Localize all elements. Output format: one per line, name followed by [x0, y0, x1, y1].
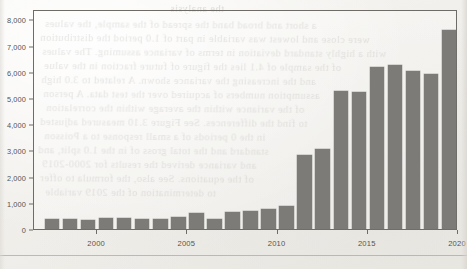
scanned-chart-page: the analysis a short and broad band the … [0, 0, 467, 269]
bar [225, 212, 239, 229]
x-tick-mark [457, 230, 458, 234]
bar [334, 91, 348, 229]
bar [189, 213, 203, 229]
x-tick-label: 2010 [268, 239, 286, 248]
bar [279, 206, 293, 229]
bar [261, 209, 275, 229]
bar [99, 218, 113, 229]
x-tick-mark [367, 230, 368, 234]
bar [315, 149, 329, 229]
bar [117, 218, 131, 229]
x-tick-mark [96, 230, 97, 234]
y-tick-label: 7,000 [7, 42, 26, 51]
bar [135, 219, 149, 229]
y-tick-label: 1,000 [7, 199, 26, 208]
chart-plot-area [33, 10, 457, 230]
y-tick-label: 5,000 [7, 95, 26, 104]
bars-container [34, 11, 456, 229]
y-tick-label: 6,000 [7, 68, 26, 77]
bar [297, 155, 311, 229]
bar [153, 219, 167, 229]
x-tick-mark [186, 230, 187, 234]
bar [352, 92, 366, 230]
bar [406, 71, 420, 229]
y-tick-label: 4,000 [7, 121, 26, 130]
y-tick-label: 0 [22, 226, 26, 235]
y-tick-label: 3,000 [7, 147, 26, 156]
y-tick-label: 2,000 [7, 173, 26, 182]
bar [63, 219, 77, 229]
bar [45, 219, 59, 229]
bar [207, 219, 221, 229]
x-tick-mark [277, 230, 278, 234]
bar [442, 30, 456, 229]
x-tick-label: 2005 [178, 239, 196, 248]
bar [370, 67, 384, 229]
bar [171, 217, 185, 229]
bar [81, 220, 95, 229]
bar [243, 211, 257, 229]
page-horizontal-rule [0, 255, 467, 256]
right-page-gutter-shadow [461, 0, 467, 269]
x-tick-label: 2015 [358, 239, 376, 248]
bar [388, 65, 402, 229]
left-page-gutter-shadow [0, 0, 5, 269]
bar [424, 74, 438, 229]
x-tick-label: 2000 [87, 239, 105, 248]
y-tick-label: 8,000 [7, 16, 26, 25]
